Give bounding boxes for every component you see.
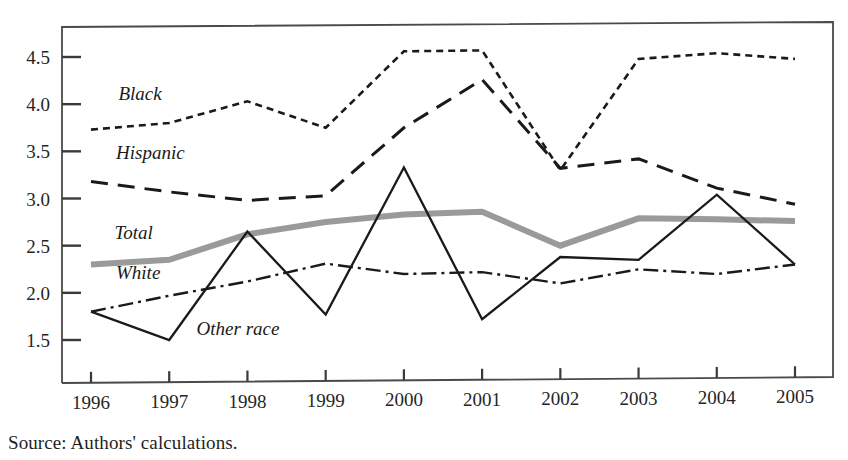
source-note: Source: Authors' calculations. <box>8 432 238 454</box>
x-axis-tick-label: 2004 <box>698 387 737 408</box>
line-chart: 1.52.02.53.03.54.04.5 199619971998199920… <box>0 0 848 460</box>
series-label-black: Black <box>118 83 162 104</box>
series-label-hispanic: Hispanic <box>115 142 185 163</box>
series-line-white <box>91 264 795 312</box>
series-label-other-race: Other race <box>197 318 280 339</box>
y-axis-ticks <box>62 57 81 340</box>
x-axis-tick-label: 2003 <box>620 388 658 409</box>
x-axis-tick-label: 2005 <box>776 386 814 407</box>
y-axis-tick-label: 2.5 <box>26 236 50 257</box>
y-axis-tick-labels: 1.52.02.53.03.54.04.5 <box>26 47 50 351</box>
x-axis-tick-label: 1999 <box>307 390 345 411</box>
y-axis-tick-label: 3.0 <box>26 189 50 210</box>
y-axis-tick-label: 1.5 <box>26 330 50 351</box>
series-line-total <box>91 212 795 265</box>
y-axis-tick-label: 4.5 <box>26 47 50 68</box>
series-line-black <box>91 50 795 170</box>
series-line-hispanic <box>91 80 795 205</box>
x-axis-tick-label: 1997 <box>150 391 188 412</box>
x-axis-tick-labels: 1996199719981999200020012002200320042005 <box>72 386 814 412</box>
y-axis-tick-label: 4.0 <box>26 94 50 115</box>
y-axis-tick-label: 2.0 <box>26 283 50 304</box>
y-axis-tick-label: 3.5 <box>26 141 50 162</box>
x-axis-tick-label: 2000 <box>385 389 423 410</box>
x-axis-tick-label: 2001 <box>463 389 501 410</box>
x-axis-tick-label: 1996 <box>72 392 110 413</box>
series-label-total: Total <box>114 222 152 243</box>
x-axis-tick-label: 2002 <box>541 388 579 409</box>
x-axis-tick-label: 1998 <box>228 391 266 412</box>
data-series-lines <box>91 50 795 340</box>
series-label-white: White <box>116 262 160 283</box>
figure-container: 1.52.02.53.03.54.04.5 199619971998199920… <box>0 0 848 460</box>
